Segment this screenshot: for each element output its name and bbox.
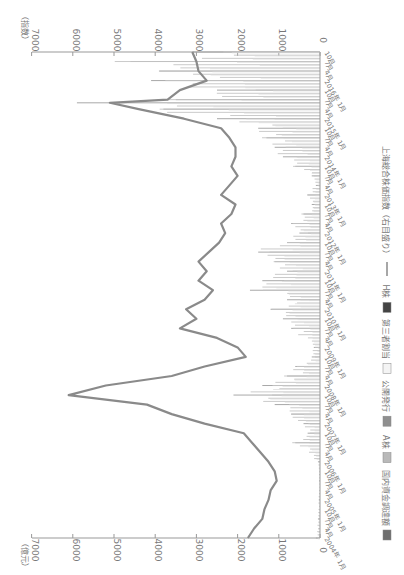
svg-text:A株: A株 [381,435,391,448]
tick-label: 6000 [71,539,81,562]
svg-text:公開発行: 公開発行 [381,380,391,412]
tick-label: 1000 [277,29,287,52]
tick-label: 0 [318,37,328,43]
date-axis-labels: 2004年 1月4月7月10月2005年 1月4月7月10月2006年 1月4月… [323,50,349,572]
tick-label: 4000 [153,29,163,52]
svg-text:第三者割当: 第三者割当 [381,319,391,359]
right-axis-label: （指数） [20,12,30,44]
tick-label: 2000 [236,29,246,52]
legend-item: 上海総合株価指数（右目盛り） [381,146,391,276]
tick-label: 1000 [277,539,287,562]
right-axis-index: 01000200030004000500060007000（指数） [20,12,328,56]
svg-text:上海総合株価指数（右目盛り）: 上海総合株価指数（右目盛り） [381,146,391,258]
legend-item: 公開発行 [381,380,391,426]
legend-item: 国内資金調達額 [381,470,391,540]
tick-label: 0 [318,547,328,553]
rotated-financing-chart: 01000200030004000500060007000（指数） 010002… [0,0,404,575]
bar-series-components [115,52,320,539]
svg-text:国内資金調達額: 国内資金調達額 [381,470,391,526]
tick-label: 2000 [236,539,246,562]
svg-text:H株: H株 [381,284,391,298]
left-axis-yuan: 01000200030004000500060007000（億元） [20,534,328,571]
line-shanghai-index [69,52,277,538]
tick-label: 5000 [112,539,122,562]
tick-label: 3000 [194,29,204,52]
tick-label: 4000 [153,539,163,562]
tick-label: 7000 [30,29,40,52]
tick-label: 3000 [194,539,204,562]
legend-item: H株 [381,284,391,312]
legend-item: 第三者割当 [381,319,391,373]
left-axis-label: （億元） [20,539,30,571]
tick-label: 7000 [30,539,40,562]
date-tick-label: 2004年 1月 [323,536,349,572]
tick-label: 5000 [112,29,122,52]
legend: 国内資金調達額A株公開発行第三者割当H株上海総合株価指数（右目盛り） [381,146,391,540]
tick-label: 6000 [71,29,81,52]
legend-item: A株 [381,435,391,462]
